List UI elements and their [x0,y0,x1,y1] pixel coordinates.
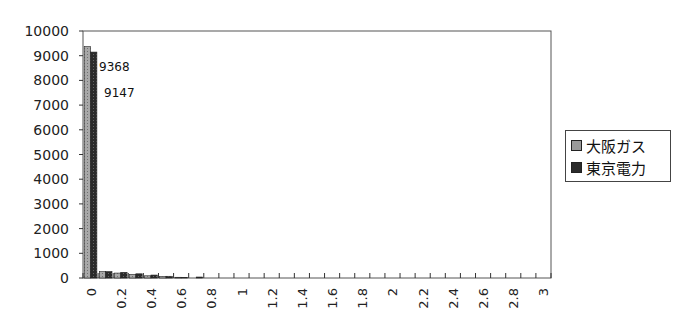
legend-item-osaka-gas: 大阪ガス [571,135,646,155]
x-tick-label: 1.4 [295,288,310,309]
bar [106,272,112,278]
x-tick-label: 2.4 [446,288,461,309]
bar [114,273,120,278]
y-tick-label: 6000 [33,122,69,138]
x-tick-label: 0 [84,288,99,296]
legend-swatch-tokyo-electric [571,162,582,173]
bar [84,47,90,278]
x-tick-label: 0.2 [114,288,129,309]
bar [175,277,181,278]
legend-swatch-osaka-gas [571,140,582,151]
bar [160,277,166,278]
y-tick-label: 4000 [33,171,69,187]
x-tick-label: 2.8 [506,288,521,309]
legend-label: 大阪ガス [586,135,646,156]
legend-item-tokyo-electric: 東京電力 [571,157,646,177]
y-tick-label: 5000 [33,147,69,163]
y-tick-label: 3000 [33,196,69,212]
y-tick-label: 2000 [33,221,69,237]
bar [99,272,105,278]
bar [121,272,127,278]
y-tick-label: 1000 [33,245,69,261]
x-tick-label: 0.6 [174,288,189,309]
bar [166,276,172,278]
bar [91,52,97,278]
bar [151,275,157,278]
plot-area [83,31,551,278]
x-tick-label: 2 [385,288,400,296]
y-axis: 0100020003000400050006000700080009000100… [24,23,83,286]
data-label-tokyo-electric: 9147 [104,86,135,100]
x-tick-label: 1.2 [265,288,280,309]
x-tick-label: 1.8 [355,288,370,309]
x-tick-label: 0.4 [144,288,159,309]
legend: 大阪ガス 東京電力 [565,130,671,182]
bar [129,274,135,278]
legend-label: 東京電力 [586,157,646,178]
x-tick-label: 0.8 [204,288,219,309]
x-tick-label: 3 [536,288,551,296]
y-tick-label: 8000 [33,72,69,88]
x-tick-label: 2.6 [476,288,491,309]
bar [136,274,142,278]
x-tick-label: 1 [235,288,250,296]
x-tick-label: 2.2 [416,288,431,309]
y-tick-label: 10000 [24,23,69,39]
y-tick-label: 7000 [33,97,69,113]
bar [145,276,151,278]
bar [196,277,202,278]
y-tick-label: 0 [60,270,69,286]
data-label-osaka-gas: 9368 [99,60,130,74]
x-tick-label: 1.6 [325,288,340,309]
y-tick-label: 9000 [33,48,69,64]
